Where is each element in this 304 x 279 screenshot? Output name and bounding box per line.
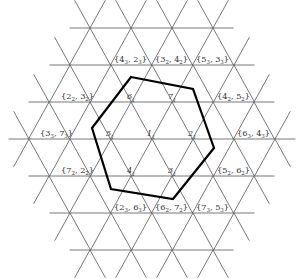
vertex-number-label: 31: [168, 166, 176, 177]
pair-label: {43, 23}: [114, 54, 147, 65]
hexagon-vertex-labels: 11213141516171: [106, 92, 196, 177]
diagonal-grid-stub: [234, 213, 249, 241]
diagonal-grid-stub: [172, 250, 187, 278]
diagonal-grid-stub: [234, 37, 249, 65]
diagonal-grid-stub: [157, 0, 172, 28]
diagonal-grid-line: [111, 213, 132, 250]
pair-label: {62, 72}: [155, 202, 188, 213]
diagonal-grid-stub: [116, 0, 131, 28]
diagonal-grid-stub: [75, 250, 90, 278]
diagonal-grid-line: [90, 176, 111, 213]
diagonal-grid-line: [173, 213, 194, 250]
diagonal-grid-stub: [55, 37, 70, 65]
diagonal-grid-line: [29, 139, 50, 176]
diagonal-grid-stub: [275, 111, 290, 139]
vertex-number-label: 41: [126, 166, 135, 177]
diagonal-grid-stub: [14, 111, 29, 139]
diagonal-grid-stub: [157, 250, 172, 278]
diagonal-grid-stub: [55, 213, 70, 241]
diagonal-grid-line: [255, 139, 276, 176]
diagonal-grid-line: [90, 28, 111, 65]
pair-label: {73, 53}: [196, 202, 229, 213]
vertex-number-label: 21: [187, 129, 196, 140]
diagonal-grid-stub: [131, 250, 146, 278]
pair-label: {72, 22}: [61, 165, 94, 176]
diagonal-grid-line: [70, 176, 91, 213]
pair-label: {33, 73}: [40, 128, 73, 139]
diagonal-grid-stub: [213, 0, 228, 28]
vertex-number-label: 61: [127, 92, 135, 103]
diagonal-grid-line: [49, 176, 70, 213]
diagonal-grid-line: [193, 213, 214, 250]
pair-label: {63, 43}: [237, 128, 270, 139]
diagonal-grid-stub: [254, 74, 269, 102]
diagonal-grid-line: [214, 213, 235, 250]
diagonal-grid-line: [234, 176, 255, 213]
diagonal-grid-stub: [34, 176, 49, 204]
triangular-lattice-diagram: 11213141516171 {43, 23}{32, 42}{53, 33}{…: [0, 0, 304, 279]
pair-label: {22, 32}: [61, 91, 94, 102]
pair-label: {53, 33}: [196, 54, 229, 65]
vertex-number-label: 11: [147, 129, 155, 140]
diagonal-grid-stub: [34, 74, 49, 102]
diagonal-grid-line: [132, 213, 153, 250]
diagonal-grid-line: [91, 213, 112, 250]
diagonal-grid-stub: [213, 250, 228, 278]
diagonal-grid-line: [70, 28, 91, 65]
diagonal-grid-stub: [254, 176, 269, 204]
diagonal-grid-stub: [90, 250, 105, 278]
pair-label: {23, 63}: [114, 202, 147, 213]
diagonal-grid-stub: [198, 250, 213, 278]
diagonal-grid-stub: [275, 139, 290, 167]
diagonal-grid-stub: [198, 0, 213, 28]
diagonal-grid-line: [70, 213, 91, 250]
pair-label: {32, 42}: [155, 54, 188, 65]
vertex-number-label: 51: [106, 129, 114, 140]
diagonal-grid-stub: [14, 139, 29, 167]
diagonal-grid-stub: [131, 0, 146, 28]
diagonal-grid-stub: [75, 0, 90, 28]
diagonal-grid-stub: [90, 0, 105, 28]
pair-label: {42, 52}: [217, 91, 250, 102]
diagonal-grid-stub: [172, 0, 187, 28]
diagonal-grid-line: [152, 213, 173, 250]
vertex-number-label: 71: [168, 92, 176, 103]
pair-label: {52, 62}: [217, 165, 250, 176]
diagonal-grid-stub: [116, 250, 131, 278]
diagonal-grid-line: [213, 102, 234, 139]
